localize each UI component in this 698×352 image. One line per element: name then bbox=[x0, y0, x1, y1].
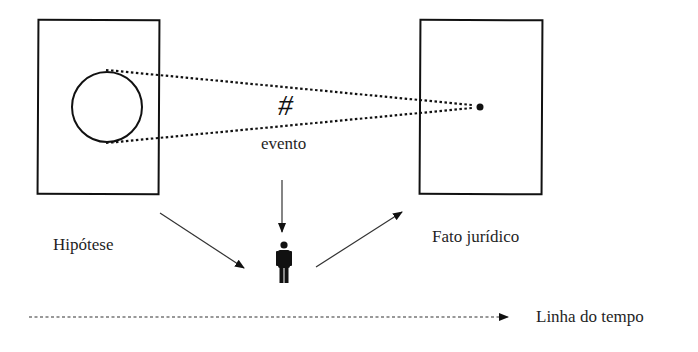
hypothesis-to-person-arrow bbox=[160, 213, 244, 268]
diagram-canvas bbox=[0, 0, 698, 352]
person-to-legal-fact-arrow bbox=[316, 212, 402, 267]
legal-fact-label: Fato jurídico bbox=[432, 227, 519, 247]
legal-fact-point bbox=[477, 104, 484, 111]
hypothesis-circle bbox=[72, 72, 142, 142]
event-symbol: # bbox=[278, 88, 293, 122]
event-label: evento bbox=[261, 134, 306, 154]
hypothesis-label: Hipótese bbox=[53, 235, 113, 255]
person-icon bbox=[276, 241, 292, 283]
timeline-label: Linha do tempo bbox=[536, 307, 644, 327]
